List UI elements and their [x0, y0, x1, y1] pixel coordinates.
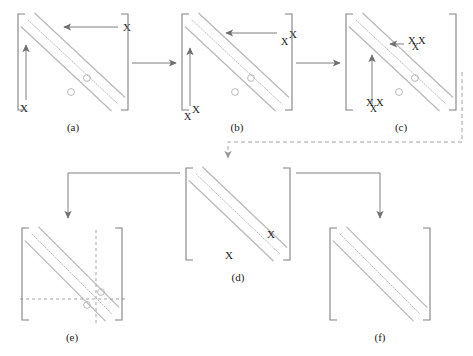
x-marker-cluster-b-1: XX	[184, 103, 200, 122]
panel-caption-f: (f)	[375, 331, 386, 344]
fill-in-circle-b-1	[232, 89, 239, 96]
band-line-b-0	[185, 27, 275, 111]
filled-entry-d-0: X	[267, 228, 275, 240]
band-line-c-1	[356, 20, 446, 104]
bracket-right-c	[449, 14, 456, 110]
band-line-d-1	[196, 174, 280, 254]
band-line-a-2	[35, 13, 125, 97]
diagonal-band-d	[189, 167, 287, 261]
x-marker-b-1-0: X	[184, 111, 192, 122]
panel-c: XXXXXX(c)	[346, 13, 456, 134]
x-marker-a-1-0: X	[20, 102, 28, 114]
diagram-canvas: XX(a)XXXX(b)XXXXXX(c)XX(d)(e)(f)	[0, 0, 473, 356]
band-line-c-0	[349, 27, 439, 111]
fill-in-circle-a-1	[68, 89, 75, 96]
x-marker-cluster-a-1: X	[20, 102, 28, 114]
diagonal-band-a	[21, 13, 125, 111]
panel-caption-d: (d)	[232, 271, 245, 284]
band-line-b-2	[199, 13, 289, 97]
bracket-left-b	[182, 14, 189, 110]
bracket-left-a	[18, 14, 25, 110]
x-marker-b-0-1: X	[289, 28, 297, 40]
x-marker-c-1-2: X	[376, 97, 384, 108]
band-line-a-1	[28, 20, 118, 104]
panel-caption-c: (c)	[395, 121, 408, 134]
diagonal-band-e	[25, 227, 119, 321]
diagonal-band-f	[333, 227, 427, 321]
x-marker-cluster-a-0: X	[123, 21, 131, 33]
band-line-e-1	[32, 234, 112, 314]
panel-caption-e: (e)	[66, 331, 79, 344]
x-marker-b-1-1: X	[192, 103, 200, 115]
panel-e: (e)	[20, 227, 128, 344]
diagonal-band-c	[349, 13, 453, 111]
x-marker-cluster-c-0: XXX	[408, 35, 426, 52]
filled-entry-d-1: X	[225, 249, 233, 261]
figure-root: XX(a)XXXX(b)XXXXXX(c)XX(d)(e)(f)	[0, 0, 473, 356]
band-line-a-0	[21, 27, 111, 111]
panel-caption-a: (a)	[67, 121, 80, 134]
panel-b: XXXX(b)	[182, 13, 297, 134]
panel-caption-b: (b)	[231, 121, 244, 134]
x-marker-cluster-b-0: XX	[281, 28, 297, 47]
band-line-f-1	[340, 234, 420, 314]
panel-d: XX(d)	[186, 167, 290, 284]
panel-f: (f)	[330, 227, 430, 344]
dashed-c-to-d	[228, 72, 462, 158]
diagonal-band-b	[185, 13, 289, 111]
fill-in-circle-c-1	[396, 89, 403, 96]
x-marker-cluster-c-1: XXX	[366, 97, 384, 114]
x-marker-c-0-2: X	[418, 35, 426, 46]
panel-a: XX(a)	[18, 13, 131, 134]
x-marker-a-0-0: X	[123, 21, 131, 33]
bracket-left-c	[346, 14, 353, 110]
arrow-d-to-e	[68, 173, 180, 218]
arrow-d-to-f	[296, 173, 380, 218]
band-line-c-2	[363, 13, 453, 97]
x-marker-b-0-0: X	[281, 36, 289, 47]
